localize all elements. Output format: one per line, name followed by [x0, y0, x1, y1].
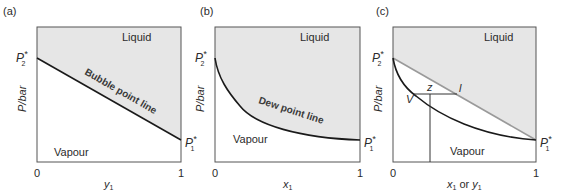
p2-star-label-a: P*2 [16, 49, 28, 67]
x-tick-0-c: 0 [390, 167, 396, 179]
liquid-region-b [215, 27, 360, 140]
x-tick-1-c: 1 [533, 167, 539, 179]
phase-diagrams: (a) Liquid Vapour Bubble point line P*2 … [0, 0, 566, 195]
x-tick-0-b: 0 [212, 167, 218, 179]
panel-c-label: (c) [376, 5, 389, 17]
z-label: z [426, 81, 433, 93]
x-tick-1-a: 1 [178, 167, 184, 179]
y-axis-label-a: P/bar [16, 84, 28, 112]
vapour-label-c: Vapour [450, 145, 485, 157]
p2-star-label-b: P*2 [195, 49, 207, 67]
liquid-label-c: Liquid [484, 31, 513, 43]
panel-c: (c) z V l Liquid Vapour P*2 P*1 P/bar 0 … [372, 5, 552, 191]
x-tick-1-b: 1 [357, 167, 363, 179]
p1-star-label-a: P*1 [185, 134, 197, 152]
panel-a: (a) Liquid Vapour Bubble point line P*2 … [3, 5, 197, 191]
x-tick-0-a: 0 [34, 167, 40, 179]
x-axis-label-b: x1 [282, 178, 293, 191]
y-axis-label-b: P/bar [194, 84, 206, 112]
vapour-label-a: Vapour [54, 146, 89, 158]
p1-star-label-c: P*1 [540, 134, 552, 152]
liquid-label-a: Liquid [122, 31, 151, 43]
panel-b: (b) Liquid Vapour Dew point line P*2 P*1… [194, 5, 376, 191]
liquid-label-b: Liquid [300, 31, 329, 43]
x-axis-label-c: x1 or y1 [446, 178, 482, 191]
panel-b-label: (b) [200, 5, 213, 17]
y-axis-label-c: P/bar [372, 84, 384, 112]
p1-star-label-b: P*1 [364, 134, 376, 152]
vapour-label-b: Vapour [233, 133, 268, 145]
p2-star-label-c: P*2 [372, 49, 384, 67]
panel-a-label: (a) [3, 5, 16, 17]
x-axis-label-a: y1 [103, 178, 114, 191]
liquid-region-c [393, 27, 536, 140]
